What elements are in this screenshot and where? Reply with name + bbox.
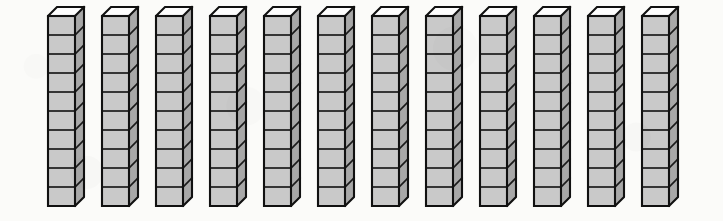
base-ten-blocks-illustration: [0, 0, 723, 221]
base-ten-rod: [423, 4, 465, 209]
base-ten-rod: [99, 4, 141, 209]
base-ten-rod: [369, 4, 411, 209]
base-ten-rod: [477, 4, 519, 209]
base-ten-rod: [639, 4, 681, 209]
base-ten-rod: [207, 4, 249, 209]
base-ten-rod: [531, 4, 573, 209]
base-ten-rod: [261, 4, 303, 209]
base-ten-rod: [153, 4, 195, 209]
base-ten-rod: [585, 4, 627, 209]
base-ten-rod: [315, 4, 357, 209]
base-ten-rod: [45, 4, 87, 209]
